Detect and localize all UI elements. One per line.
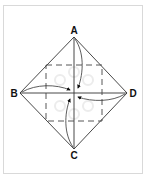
label-d: D bbox=[129, 88, 136, 99]
arrow-c-to-center bbox=[66, 99, 73, 147]
arrow-d-to-center bbox=[78, 94, 125, 100]
label-c: C bbox=[70, 150, 77, 161]
label-a: A bbox=[70, 25, 77, 36]
arrow-a-to-center bbox=[75, 39, 82, 88]
origami-diagram: A B D C bbox=[0, 0, 149, 180]
label-b: B bbox=[10, 88, 17, 99]
